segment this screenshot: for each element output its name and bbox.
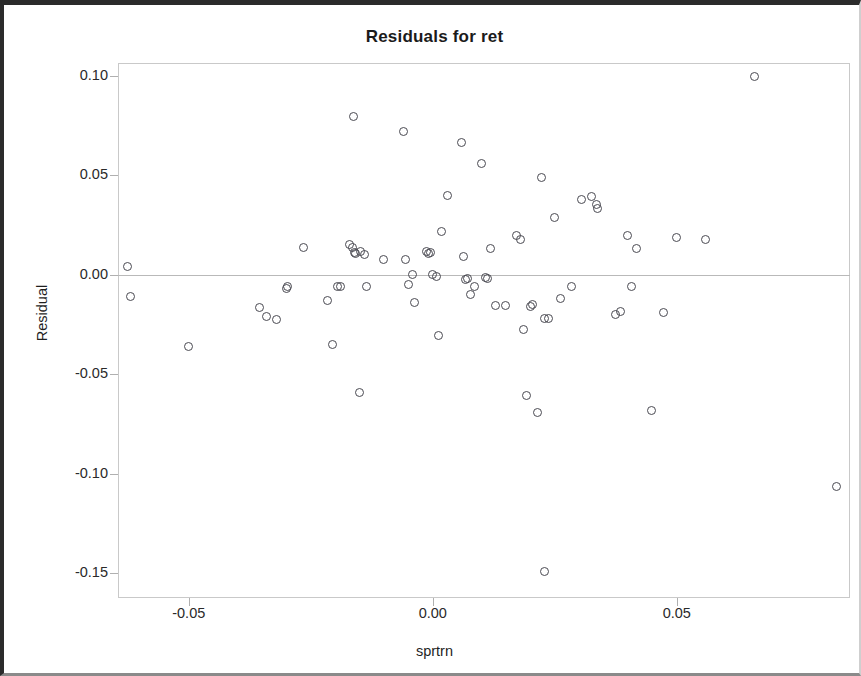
scatter-point (404, 280, 413, 289)
scatter-point (501, 301, 510, 310)
scatter-point (519, 325, 528, 334)
scatter-point (349, 112, 358, 121)
y-tick-mark (110, 76, 118, 77)
page-title: Residuals for ret (4, 27, 861, 47)
scatter-point (126, 292, 135, 301)
scatter-point (540, 567, 549, 576)
scatter-point (550, 213, 559, 222)
scatter-point (255, 303, 264, 312)
x-tick-label: 0.00 (393, 605, 473, 621)
scatter-point (336, 282, 345, 291)
scatter-point (355, 388, 364, 397)
y-tick-label: 0.10 (46, 67, 108, 83)
chart-canvas: Residuals for ret 0.100.050.00-0.05-0.10… (4, 5, 861, 676)
scatter-point (537, 173, 546, 182)
scatter-point (701, 235, 710, 244)
x-axis-title: sprtrn (4, 643, 861, 659)
x-tick-label: -0.05 (149, 605, 229, 621)
y-tick-mark (110, 573, 118, 574)
scatter-point (647, 406, 656, 415)
scatter-point (426, 248, 435, 257)
x-tick-mark (189, 598, 190, 606)
scatter-point (483, 274, 492, 283)
scatter-point (443, 191, 452, 200)
scatter-point (533, 408, 542, 417)
scatter-point (437, 227, 446, 236)
x-tick-label: 0.05 (637, 605, 717, 621)
scatter-point (486, 244, 495, 253)
scatter-point (528, 300, 537, 309)
scatter-point (283, 282, 292, 291)
y-tick-label: -0.10 (46, 465, 108, 481)
y-axis-title: Residual (34, 253, 50, 373)
scatter-point (457, 138, 466, 147)
plot-window: Residuals for ret 0.100.050.00-0.05-0.10… (0, 0, 861, 676)
y-tick-mark (110, 275, 118, 276)
x-tick-mark (433, 598, 434, 606)
y-tick-mark (110, 175, 118, 176)
scatter-point (408, 270, 417, 279)
y-tick-mark (110, 374, 118, 375)
scatter-point (399, 127, 408, 136)
scatter-point (616, 307, 625, 316)
y-tick-label: -0.05 (46, 365, 108, 381)
scatter-point (522, 391, 531, 400)
scatter-point (491, 301, 500, 310)
scatter-point (516, 235, 525, 244)
scatter-point (470, 282, 479, 291)
scatter-point (672, 233, 681, 242)
scatter-point (410, 298, 419, 307)
x-tick-mark (677, 598, 678, 606)
y-tick-label: -0.15 (46, 564, 108, 580)
scatter-point (434, 331, 443, 340)
scatter-point (459, 252, 468, 261)
plot-area-frame (118, 63, 850, 598)
scatter-point (262, 312, 271, 321)
y-tick-label: 0.00 (46, 266, 108, 282)
y-tick-mark (110, 474, 118, 475)
scatter-point (556, 294, 565, 303)
y-tick-label: 0.05 (46, 166, 108, 182)
